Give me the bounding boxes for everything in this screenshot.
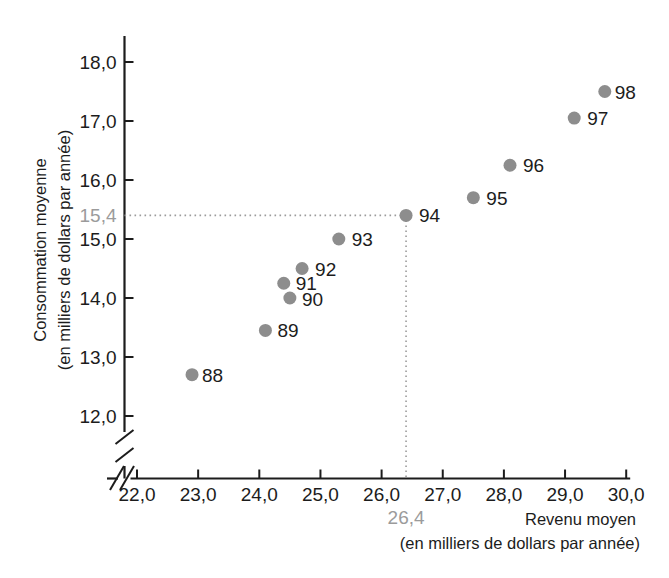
y-axis-break-mark-1 xyxy=(116,430,134,444)
data-points-group xyxy=(186,85,612,381)
data-point-labels: 8889909192939495969798 xyxy=(202,82,636,386)
highlight-y-label: 15,4 xyxy=(80,205,117,226)
y-axis-subtitle: (en milliers de dollars par année) xyxy=(55,130,73,370)
axis-break-marks xyxy=(110,430,134,490)
x-tick-label-27,0: 27,0 xyxy=(424,484,461,505)
y-tick-label-14,0: 14,0 xyxy=(80,288,117,309)
data-point-97[interactable] xyxy=(568,112,581,125)
x-tick-label-28,0: 28,0 xyxy=(485,484,522,505)
x-tick-label-26,0: 26,0 xyxy=(363,484,400,505)
y-tick-label-18,0: 18,0 xyxy=(80,52,117,73)
data-point-label-97: 97 xyxy=(587,108,608,129)
data-point-94[interactable] xyxy=(400,209,413,222)
y-axis-ticks xyxy=(125,62,134,416)
data-point-93[interactable] xyxy=(332,233,345,246)
x-tick-label-22,0: 22,0 xyxy=(119,484,156,505)
x-axis-tick-labels: 22,023,024,025,026,027,028,029,030,0 xyxy=(119,484,645,505)
data-point-95[interactable] xyxy=(467,191,480,204)
highlight-guide-lines xyxy=(125,215,407,478)
x-tick-label-30,0: 30,0 xyxy=(608,484,645,505)
data-point-label-93: 93 xyxy=(352,229,373,250)
x-tick-label-25,0: 25,0 xyxy=(302,484,339,505)
data-point-label-91: 91 xyxy=(296,273,317,294)
x-axis-subtitle: (en milliers de dollars par année) xyxy=(400,534,640,552)
y-tick-label-15,0: 15,0 xyxy=(80,229,117,250)
data-point-label-92: 92 xyxy=(315,259,336,280)
y-tick-label-17,0: 17,0 xyxy=(80,111,117,132)
data-point-label-95: 95 xyxy=(486,188,507,209)
y-tick-label-16,0: 16,0 xyxy=(80,170,117,191)
plot-canvas: 22,023,024,025,026,027,028,029,030,0 12,… xyxy=(0,0,669,578)
data-point-label-89: 89 xyxy=(277,320,298,341)
highlight-x-label: 26,4 xyxy=(388,507,425,528)
x-axis-ticks xyxy=(137,470,626,479)
y-axis-tick-labels: 12,013,014,015,016,017,018,0 xyxy=(80,52,117,427)
data-point-label-98: 98 xyxy=(615,82,636,103)
data-point-98[interactable] xyxy=(598,85,611,98)
y-axis-break-mark-2 xyxy=(116,448,134,462)
x-tick-label-29,0: 29,0 xyxy=(547,484,584,505)
scatter-chart: 22,023,024,025,026,027,028,029,030,0 12,… xyxy=(0,0,669,578)
data-point-91[interactable] xyxy=(277,277,290,290)
x-tick-label-24,0: 24,0 xyxy=(241,484,278,505)
y-tick-label-13,0: 13,0 xyxy=(80,347,117,368)
data-point-label-96: 96 xyxy=(523,155,544,176)
data-point-89[interactable] xyxy=(259,324,272,337)
data-point-label-94: 94 xyxy=(419,205,441,226)
data-point-label-88: 88 xyxy=(202,365,223,386)
y-axis-title: Consommation moyenne xyxy=(31,158,49,341)
data-point-96[interactable] xyxy=(504,159,517,172)
data-point-90[interactable] xyxy=(283,292,296,305)
axes-group xyxy=(107,36,630,479)
data-point-88[interactable] xyxy=(186,368,199,381)
y-tick-label-12,0: 12,0 xyxy=(80,406,117,427)
x-tick-label-23,0: 23,0 xyxy=(180,484,217,505)
x-axis-title: Revenu moyen xyxy=(525,510,636,528)
